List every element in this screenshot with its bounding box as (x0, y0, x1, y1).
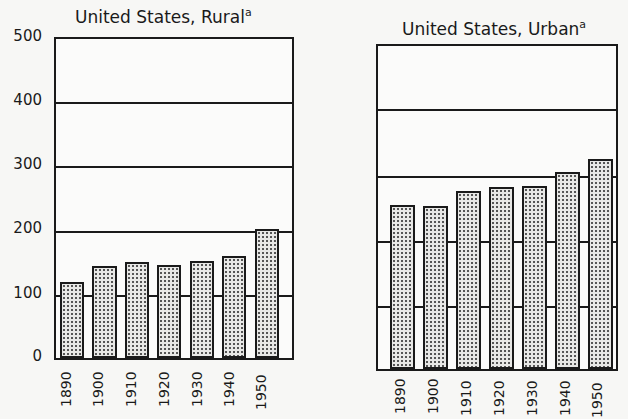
rural-bar-1900 (92, 266, 117, 358)
rural-chart-title: United States, Rurala (75, 6, 252, 27)
rural-xtick-1950: 1950 (253, 374, 269, 410)
rural-gridline-300 (56, 166, 292, 168)
urban-gridline-400 (378, 109, 616, 111)
rural-xtick-1940: 1940 (221, 371, 237, 407)
urban-xtick-1910: 1910 (458, 380, 474, 416)
rural-xtick-1920: 1920 (156, 371, 172, 407)
rural-xtick-1890: 1890 (58, 371, 74, 407)
urban-xtick-1940: 1940 (557, 380, 573, 416)
rural-ytick-100: 100 (2, 284, 42, 302)
rural-bar-1930 (190, 261, 214, 358)
rural-xtick-1900: 1900 (90, 371, 106, 407)
rural-bar-1890 (60, 282, 84, 358)
rural-ytick-0: 0 (2, 347, 42, 365)
rural-xtick-1930: 1930 (189, 371, 205, 407)
urban-bar-1920 (489, 187, 514, 369)
rural-bar-1910 (125, 262, 149, 358)
urban-bar-1900 (423, 206, 448, 369)
rural-bar-1950 (255, 229, 279, 358)
urban-bar-1930 (522, 186, 547, 369)
urban-chart-title: United States, Urbana (402, 18, 586, 39)
rural-ytick-300: 300 (2, 155, 42, 173)
rural-bar-1940 (222, 256, 246, 358)
rural-ytick-400: 400 (2, 91, 42, 109)
rural-title-footnote: a (245, 6, 252, 19)
rural-title-text: United States, Rural (75, 7, 245, 27)
urban-plot-area (376, 44, 618, 371)
rural-ytick-500: 500 (2, 27, 42, 45)
rural-ytick-200: 200 (2, 219, 42, 237)
urban-xtick-1950: 1950 (589, 382, 605, 418)
urban-xtick-1920: 1920 (491, 380, 507, 416)
urban-bar-1940 (555, 172, 580, 369)
urban-gridline-300 (378, 176, 616, 178)
rural-xtick-1910: 1910 (123, 371, 139, 407)
urban-bar-1910 (456, 191, 481, 369)
urban-bar-1890 (390, 205, 415, 369)
rural-plot-area (54, 37, 294, 360)
urban-bar-1950 (588, 159, 613, 369)
urban-title-footnote: a (579, 18, 586, 31)
urban-xtick-1900: 1900 (425, 378, 441, 414)
urban-xtick-1930: 1930 (524, 380, 540, 416)
urban-xtick-1890: 1890 (392, 378, 408, 414)
rural-bar-1920 (157, 265, 181, 358)
rural-gridline-400 (56, 102, 292, 104)
urban-title-text: United States, Urban (402, 19, 579, 39)
